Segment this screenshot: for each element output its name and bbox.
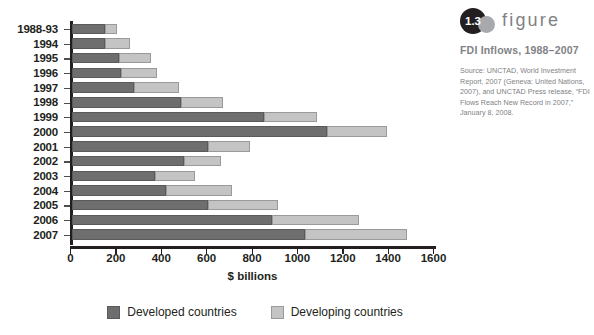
y-axis-label: 1988-93 — [0, 22, 62, 37]
x-tick-label: 1400 — [375, 252, 401, 264]
bar-segment — [119, 53, 152, 64]
y-axis-label: 2004 — [0, 184, 62, 199]
y-tick — [64, 191, 70, 192]
bar-segment — [72, 53, 119, 64]
bar-row — [72, 110, 435, 125]
bar-segment — [72, 215, 272, 226]
y-tick — [64, 235, 70, 236]
y-tick — [64, 88, 70, 89]
y-tick — [64, 220, 70, 221]
bar-segment — [155, 171, 195, 182]
y-axis-label: 1994 — [0, 37, 62, 52]
bar-segment — [184, 156, 220, 167]
bar-segment — [72, 229, 305, 240]
x-axis-tick-labels: 02004006008001000120014001600 — [70, 252, 450, 266]
bar-segment — [105, 38, 130, 49]
y-axis-label: 2005 — [0, 198, 62, 213]
y-tick — [64, 161, 70, 162]
chart: 1988-93199419951996199719981999200020012… — [0, 0, 450, 300]
y-axis-label: 1999 — [0, 110, 62, 125]
y-tick — [64, 103, 70, 104]
bar-segment — [181, 97, 223, 108]
plot-area — [70, 22, 435, 243]
y-tick — [64, 58, 70, 59]
legend-label-developing: Developing countries — [291, 305, 403, 319]
y-tick — [64, 205, 70, 206]
x-axis-title: $ billions — [70, 270, 435, 282]
bar-segment — [72, 171, 155, 182]
bar-row — [72, 37, 435, 52]
figure-badge: 1.3 figure — [452, 6, 592, 40]
y-axis-label: 2003 — [0, 169, 62, 184]
figure-number: 1.3 — [460, 8, 486, 34]
bar-segment — [72, 82, 134, 93]
x-tick-label: 800 — [242, 252, 261, 264]
y-tick — [64, 176, 70, 177]
y-axis-label: 1995 — [0, 51, 62, 66]
bar-segment — [264, 112, 317, 123]
y-tick — [64, 117, 70, 118]
bar-segment — [72, 24, 105, 35]
legend-item-developed: Developed countries — [107, 305, 236, 319]
legend-label-developed: Developed countries — [127, 305, 236, 319]
bar-row — [72, 22, 435, 37]
bar-row — [72, 140, 435, 155]
bar-row — [72, 51, 435, 66]
bar-segment — [208, 200, 278, 211]
y-tick — [64, 44, 70, 45]
bar-row — [72, 228, 435, 243]
legend-swatch-developing — [271, 306, 284, 319]
bar-row — [72, 125, 435, 140]
figure-sidebar: 1.3 figure FDI Inflows, 1988–2007 Source… — [452, 6, 592, 119]
legend-item-developing: Developing countries — [271, 305, 403, 319]
bar-row — [72, 96, 435, 111]
bar-segment — [72, 200, 208, 211]
figure-word: figure — [502, 10, 560, 31]
bar-segment — [72, 38, 105, 49]
x-tick-label: 600 — [197, 252, 216, 264]
bar-segment — [72, 97, 181, 108]
bar-row — [72, 169, 435, 184]
y-axis-label: 1997 — [0, 81, 62, 96]
y-axis-label: 2000 — [0, 125, 62, 140]
figure-source: Source: UNCTAD, World Investment Report,… — [460, 66, 592, 119]
bar-segment — [72, 126, 327, 137]
figure-page: 1988-93199419951996199719981999200020012… — [0, 0, 594, 335]
bar-segment — [134, 82, 178, 93]
y-tick — [64, 132, 70, 133]
y-tick — [64, 29, 70, 30]
bar-segment — [72, 68, 121, 79]
figure-title: FDI Inflows, 1988–2007 — [460, 44, 592, 56]
bar-segment — [72, 112, 264, 123]
legend-swatch-developed — [107, 306, 120, 319]
bar-segment — [305, 229, 407, 240]
x-tick-label: 1200 — [330, 252, 356, 264]
bar-segment — [327, 126, 387, 137]
bar-row — [72, 213, 435, 228]
x-tick-label: 1000 — [285, 252, 311, 264]
bar-segment — [72, 141, 208, 152]
y-tick — [64, 147, 70, 148]
bar-segment — [272, 215, 359, 226]
bar-row — [72, 154, 435, 169]
bar-row — [72, 81, 435, 96]
bar-row — [72, 66, 435, 81]
x-tick-label: 200 — [106, 252, 125, 264]
bar-row — [72, 184, 435, 199]
y-axis-label: 1996 — [0, 66, 62, 81]
x-tick-label: 400 — [152, 252, 171, 264]
y-axis-label: 2002 — [0, 154, 62, 169]
x-tick-label: 0 — [67, 252, 73, 264]
y-axis-label: 2006 — [0, 213, 62, 228]
bar-row — [72, 198, 435, 213]
y-tick — [64, 73, 70, 74]
y-axis-label: 2001 — [0, 140, 62, 155]
bar-segment — [72, 185, 166, 196]
x-tick-label: 1600 — [421, 252, 447, 264]
chart-legend: Developed countries Developing countries — [70, 305, 440, 319]
y-axis-label: 1998 — [0, 95, 62, 110]
bar-segment — [208, 141, 250, 152]
y-axis-label: 2007 — [0, 228, 62, 243]
bar-segment — [72, 156, 184, 167]
y-axis-labels: 1988-93199419951996199719981999200020012… — [0, 22, 62, 242]
